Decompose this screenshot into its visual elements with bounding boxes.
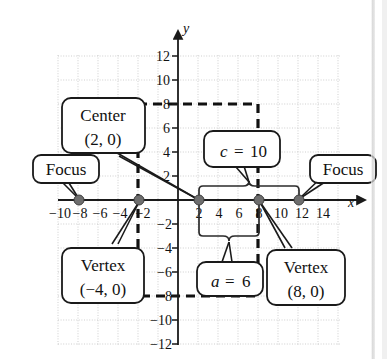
callout-vertex-right-line2: (8, 0)	[288, 282, 325, 301]
point-vertex-right	[254, 195, 264, 205]
y-tick-label: −6	[157, 265, 172, 280]
x-axis-label: x	[347, 195, 355, 210]
y-tick-label: 4	[163, 145, 170, 160]
x-tick-label: 12	[295, 206, 309, 221]
callout-a-value: 6	[242, 272, 251, 291]
callout-c-measure: c = 10	[204, 131, 280, 167]
x-tick-label: −8	[73, 206, 88, 221]
x-tick-label: −6	[93, 206, 108, 221]
coordinate-plane: x y −10 −8 −6 −4 −2 2 4 6 8 10 12 14 12 …	[0, 0, 387, 359]
y-tick-label: 10	[156, 73, 170, 88]
leader-center-b	[119, 156, 199, 200]
point-focus-left	[74, 195, 84, 205]
callout-a-measure: a = 6	[197, 262, 263, 296]
y-tick-label: 12	[156, 49, 170, 64]
x-tick-label: 6	[236, 206, 243, 221]
callout-focus-right-label: Focus	[323, 160, 364, 179]
point-focus-right	[294, 195, 304, 205]
callout-vertex-right: Vertex (8, 0)	[267, 250, 345, 305]
leader-a-a	[222, 242, 229, 262]
point-center	[194, 195, 204, 205]
ellipse-figure: x y −10 −8 −6 −4 −2 2 4 6 8 10 12 14 12 …	[0, 0, 387, 359]
callout-a-equals: =	[225, 272, 235, 291]
callout-vertex-left-line1: Vertex	[81, 256, 126, 275]
callout-center-line2: (2, 0)	[85, 130, 122, 149]
callout-c-var: c	[220, 142, 228, 161]
callout-center: Center (2, 0)	[62, 98, 145, 153]
callout-center-line1: Center	[80, 106, 126, 125]
callout-focus-left: Focus	[33, 155, 99, 183]
callout-c-value: 10	[250, 142, 267, 161]
x-tick-labels: −10 −8 −6 −4 −2 2 4 6 8 10 12 14	[49, 206, 330, 221]
callout-c-equals: =	[234, 142, 244, 161]
page-scan-margin	[382, 0, 387, 359]
callout-focus-left-label: Focus	[46, 160, 87, 179]
callout-focus-right: Focus	[310, 155, 376, 183]
callout-vertex-left-line2: (−4, 0)	[80, 280, 126, 299]
y-axis-label: y	[181, 21, 190, 36]
point-vertex-left	[134, 195, 144, 205]
y-tick-label: −2	[157, 217, 172, 232]
a-measure-brace	[199, 205, 259, 241]
x-tick-label: 14	[316, 206, 330, 221]
leader-a-b	[229, 242, 232, 262]
x-tick-label: −10	[49, 206, 71, 221]
x-tick-label: 4	[216, 206, 223, 221]
callout-vertex-left: Vertex (−4, 0)	[62, 248, 144, 303]
x-tick-label: −4	[113, 206, 128, 221]
c-measure-brace	[199, 181, 299, 197]
callout-vertex-right-line1: Vertex	[284, 258, 329, 277]
y-tick-label: −8	[157, 289, 172, 304]
x-tick-label: −2	[136, 206, 151, 221]
callout-a-var: a	[211, 272, 220, 291]
y-tick-label: −4	[157, 241, 172, 256]
page-scan-edge	[371, 0, 375, 359]
y-tick-label: 8	[163, 97, 170, 112]
x-tick-label: 10	[274, 206, 288, 221]
y-tick-label: −10	[150, 313, 172, 328]
y-tick-label: −12	[150, 337, 172, 352]
y-tick-label: 6	[163, 121, 170, 136]
